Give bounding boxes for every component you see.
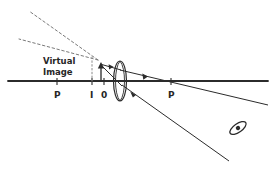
label-focal-right: P: [168, 90, 175, 100]
ray-diagram-canvas: Virtual Image P I 0 P: [0, 0, 273, 174]
label-object-point: 0: [101, 90, 107, 100]
virtual-label: Virtual: [43, 56, 75, 66]
diagram-background: [0, 0, 273, 174]
label-image-point: I: [90, 90, 93, 100]
image-label: Image: [43, 67, 73, 77]
optics-diagram-page: Virtual Image P I 0 P: [0, 0, 273, 174]
label-focal-left: P: [54, 90, 61, 100]
